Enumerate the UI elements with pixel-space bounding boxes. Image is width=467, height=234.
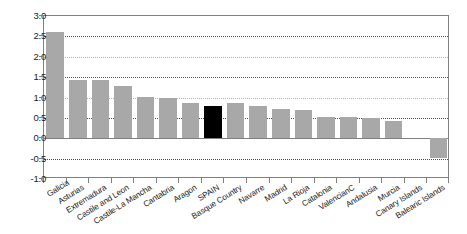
bar-slot [270,16,293,177]
bar [340,117,358,138]
bar [92,80,110,138]
y-axis-tick-mark [39,178,43,179]
bar-series [44,16,448,177]
bar-slot [292,16,315,177]
y-axis-tick-mark [39,117,43,118]
bar-slot [382,16,405,177]
bar-slot [427,16,450,177]
y-axis-tick-mark [39,56,43,57]
bar-slot [179,16,202,177]
bar [317,117,335,139]
bar [362,118,380,138]
bar [69,80,87,138]
bar-slot [315,16,338,177]
bar-slot [405,16,428,177]
plot-area [43,15,449,178]
y-axis-tick-mark [39,76,43,77]
y-axis-tick-mark [39,35,43,36]
bar-slot [67,16,90,177]
bar-slot [224,16,247,177]
x-axis-labels: GaliciaAsturiasExtremaduraCastile and Le… [43,183,449,234]
bar [46,32,64,138]
bar [227,103,245,138]
bar [159,98,177,139]
bar-slot [112,16,135,177]
bar-slot [157,16,180,177]
bar [295,110,313,139]
y-axis-tick-mark [39,158,43,159]
bar-slot [202,16,225,177]
bar-slot [44,16,67,177]
y-axis-tick-mark [39,137,43,138]
y-axis-tick-mark [39,15,43,16]
bar [204,106,222,139]
bar-slot [337,16,360,177]
bar-slot [89,16,112,177]
bar-slot [247,16,270,177]
bar-slot [360,16,383,177]
bar-chart: GaliciaAsturiasExtremaduraCastile and Le… [0,0,467,234]
bar [182,103,200,138]
bar-slot [134,16,157,177]
bar [114,86,132,138]
bar [137,97,155,139]
bar [272,109,290,138]
bar [430,138,448,158]
y-axis-tick-mark [39,97,43,98]
bar [385,121,403,138]
bar [249,106,267,138]
